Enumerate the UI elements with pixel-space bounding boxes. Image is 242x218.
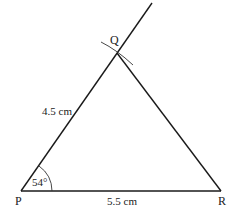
side-label-pq: 4.5 cm	[42, 105, 72, 117]
side-label-pr: 5.5 cm	[107, 195, 137, 207]
triangle-diagram: Q 4.5 cm 54° P 5.5 cm R	[0, 0, 242, 218]
vertex-label-q: Q	[110, 33, 119, 47]
vertex-label-p: P	[15, 194, 22, 208]
ray-pq	[21, 3, 152, 191]
angle-label-p: 54°	[32, 176, 47, 188]
side-qr	[117, 53, 221, 191]
vertex-label-r: R	[218, 194, 226, 208]
